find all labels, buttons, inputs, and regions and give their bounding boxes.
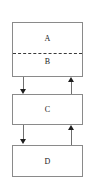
connector-c-to-ab-line	[71, 82, 72, 94]
layered-block-diagram: A B C D	[0, 0, 96, 192]
node-label-d: D	[13, 158, 82, 166]
node-c[interactable]: C	[12, 94, 83, 125]
node-label-a: A	[13, 35, 82, 43]
node-label-c: C	[13, 106, 82, 114]
connector-c-to-d-line	[23, 125, 24, 140]
connector-d-to-c-line	[71, 130, 72, 145]
arrowhead-down-c-to-d-icon	[20, 139, 26, 144]
arrowhead-up-c-to-ab-icon	[68, 77, 74, 82]
node-d[interactable]: D	[12, 145, 83, 177]
node-label-b: B	[13, 58, 82, 66]
dashed-divider-ab	[13, 53, 82, 54]
node-group-ab[interactable]: A B	[12, 22, 83, 77]
arrowhead-up-d-to-c-icon	[68, 125, 74, 130]
